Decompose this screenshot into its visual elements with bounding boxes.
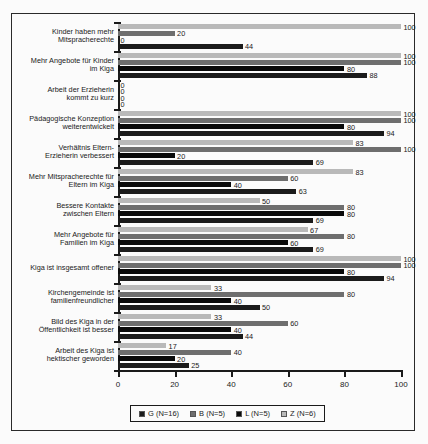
bar-b — [118, 234, 344, 239]
bar-value-label: 80 — [347, 211, 355, 218]
legend-label: G (N=16) — [148, 409, 179, 418]
bar-l — [118, 327, 231, 332]
x-axis-tick-label: 40 — [227, 380, 236, 389]
bar-g — [118, 73, 367, 78]
bar-z — [118, 256, 401, 261]
bar-g — [118, 189, 296, 194]
category-label: Bild des Kiga in derÖffentlichkeit ist b… — [8, 318, 114, 335]
bar-group: 1001008088 — [118, 51, 401, 80]
legend-swatch-z — [281, 411, 287, 417]
x-axis-tick-label: 100 — [394, 380, 407, 389]
bar-z — [118, 227, 308, 232]
x-axis-tick-label: 80 — [340, 380, 349, 389]
bar-value-label: 100 — [404, 59, 416, 66]
legend-swatch-b — [190, 411, 196, 417]
category-label: Verhältnis Eltern-Erzieherin verbessert — [8, 144, 114, 161]
bar-value-label: 88 — [370, 72, 378, 79]
bar-b — [118, 147, 401, 152]
bar-value-label: 69 — [316, 246, 324, 253]
bar-value-label: 60 — [290, 175, 298, 182]
category-label: Pädagogische Konzeptionweiterentwickelt — [8, 115, 114, 132]
bar-l — [118, 66, 344, 71]
bar-group: 1001008094 — [118, 109, 401, 138]
bar-value-label: 63 — [299, 188, 307, 195]
bar-group: 831002069 — [118, 138, 401, 167]
x-axis-tick — [288, 370, 290, 377]
category-label: Mehr Mitspracherechte fürEltern im Kiga — [8, 173, 114, 190]
bar-group: 33804050 — [118, 283, 401, 312]
bar-value-label: 44 — [245, 333, 253, 340]
bar-value-label: 80 — [347, 291, 355, 298]
legend-label: B (N=5) — [199, 409, 225, 418]
bar-value-label: 0 — [121, 101, 125, 108]
bar-value-label: 83 — [355, 169, 363, 176]
bar-z — [118, 314, 211, 319]
bar-value-label: 100 — [404, 262, 416, 269]
legend-label: Z (N=6) — [290, 409, 316, 418]
bar-group: 1001008094 — [118, 254, 401, 283]
legend-label: L (N=5) — [245, 409, 270, 418]
bar-g — [118, 44, 243, 49]
bar-b — [118, 350, 231, 355]
bar-g — [118, 305, 260, 310]
x-axis-tick — [175, 370, 177, 377]
x-axis-line — [118, 370, 401, 372]
bar-value-label: 60 — [290, 320, 298, 327]
bar-b — [118, 263, 401, 268]
bar-group: 67806069 — [118, 225, 401, 254]
bar-value-label: 100 — [404, 146, 416, 153]
bar-l — [118, 153, 175, 158]
bar-l — [118, 240, 288, 245]
bar-group: 83604063 — [118, 167, 401, 196]
bar-value-label: 94 — [387, 275, 395, 282]
bar-value-label: 69 — [316, 217, 324, 224]
legend-entry: G (N=16) — [139, 409, 179, 418]
bar-g — [118, 276, 384, 281]
category-label: Kinder haben mehrMitspracherechte — [8, 28, 114, 45]
bar-group: 10020044 — [118, 22, 401, 51]
legend-entry: L (N=5) — [236, 409, 270, 418]
bar-b — [118, 176, 288, 181]
bar-l — [118, 182, 231, 187]
category-label: Kirchengemeinde istfamilienfreundlicher — [8, 289, 114, 306]
x-axis-tick — [401, 370, 403, 377]
bar-b — [118, 321, 288, 326]
bar-l — [118, 269, 344, 274]
bar-group: 33604044 — [118, 312, 401, 341]
bar-l — [118, 211, 344, 216]
bar-group: 17402025 — [118, 341, 401, 370]
bar-b — [118, 60, 401, 65]
x-axis-tick — [231, 370, 233, 377]
legend-swatch-l — [236, 411, 242, 417]
x-axis-tick-label: 20 — [170, 380, 179, 389]
chart-legend: G (N=16)B (N=5)L (N=5)Z (N=6) — [130, 405, 325, 422]
bar-z — [118, 111, 401, 116]
legend-swatch-g — [139, 411, 145, 417]
category-label: Bessere Kontaktezwischen Eltern — [8, 202, 114, 219]
bar-l — [118, 298, 231, 303]
bar-value-label: 20 — [177, 30, 185, 37]
bar-group: 50808069 — [118, 196, 401, 225]
bar-value-label: 100 — [404, 117, 416, 124]
legend-entry: B (N=5) — [190, 409, 225, 418]
x-axis-tick — [344, 370, 346, 377]
plot-area: 1002004410010080880000100100809483100206… — [118, 22, 401, 370]
chart-figure: 1002004410010080880000100100809483100206… — [0, 0, 428, 444]
bar-b — [118, 31, 175, 36]
x-axis-tick — [118, 370, 120, 377]
bar-g — [118, 247, 313, 252]
bar-value-label: 40 — [234, 349, 242, 356]
bar-group: 0000 — [118, 80, 401, 109]
category-label: Mehr Angebote fürFamilien im Kiga — [8, 231, 114, 248]
bar-value-label: 80 — [347, 233, 355, 240]
bar-g — [118, 160, 313, 165]
bar-g — [118, 218, 313, 223]
x-axis-tick-label: 60 — [283, 380, 292, 389]
bar-value-label: 100 — [404, 24, 416, 31]
bar-value-label: 69 — [316, 159, 324, 166]
bar-z — [118, 24, 401, 29]
bar-value-label: 25 — [191, 362, 199, 369]
bar-z — [118, 169, 353, 174]
bar-b — [118, 292, 344, 297]
bar-g — [118, 334, 243, 339]
